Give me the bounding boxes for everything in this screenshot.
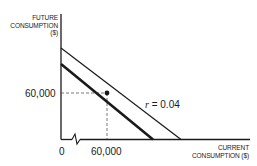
interest-rate-value: = 0.04 <box>149 99 180 110</box>
axis-break-icon <box>72 134 80 144</box>
y-axis-label: FUTURE CONSUMPTION ($) <box>10 14 58 37</box>
origin-label: 0 <box>59 146 65 157</box>
budget-line-r-0.04 <box>61 48 181 140</box>
y-axis-label-line: ($) <box>10 29 58 37</box>
x-tick-label: 60,000 <box>91 146 122 157</box>
y-tick-label: 60,000 <box>25 88 56 99</box>
y-axis-label-line: FUTURE <box>10 14 58 22</box>
x-axis-label-line: CONSUMPTION ($) <box>192 152 249 160</box>
y-axis-label-line: CONSUMPTION <box>10 22 58 30</box>
endowment-point <box>105 91 110 96</box>
x-axis-label: CURRENT CONSUMPTION ($) <box>192 144 249 159</box>
interest-rate-label: r = 0.04 <box>145 99 180 110</box>
x-axis-label-line: CURRENT <box>192 144 249 152</box>
